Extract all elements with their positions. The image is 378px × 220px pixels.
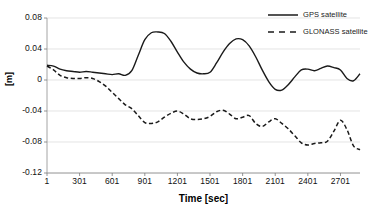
legend-line-swatch: [268, 27, 298, 37]
legend-line-swatch: [268, 10, 298, 20]
plot-area: [47, 18, 360, 173]
chart-legend: GPS satelliteGLONASS satellite: [268, 6, 378, 40]
y-axis-tick-label: 0.08: [0, 13, 42, 22]
y-axis-tick-label: -0.04: [0, 106, 42, 115]
x-axis-title: Time [sec]: [47, 193, 360, 204]
series-line-2: [47, 66, 360, 150]
y-axis-tick-label: -0.08: [0, 137, 42, 146]
x-axis-tick-label: 2701: [320, 176, 360, 186]
plot-svg: [47, 18, 360, 173]
series-line-1: [47, 32, 360, 91]
legend-item: GLONASS satellite: [268, 23, 378, 40]
y-axis-tick-label: 0.04: [0, 44, 42, 53]
legend-item: GPS satellite: [268, 6, 378, 23]
legend-label: GPS satellite: [303, 10, 347, 19]
legend-label: GLONASS satellite: [303, 27, 368, 36]
y-axis-title: [m]: [4, 64, 14, 94]
x-axis-tick-labels: 1301601901120115011801210124012701: [0, 176, 378, 190]
chart-container: 0.080.040-0.04-0.08-0.12 [m] 13016019011…: [0, 0, 378, 220]
